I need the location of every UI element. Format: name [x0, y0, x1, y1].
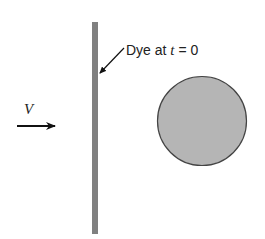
velocity-label: V [24, 101, 35, 117]
cylinder [158, 77, 247, 166]
dye-line [92, 22, 98, 234]
diagram-svg: Dye at t = 0 V [0, 0, 265, 239]
flow-diagram: Dye at t = 0 V [0, 0, 265, 239]
dye-leader-arrow [100, 48, 124, 73]
dye-label: Dye at t = 0 [126, 42, 198, 58]
